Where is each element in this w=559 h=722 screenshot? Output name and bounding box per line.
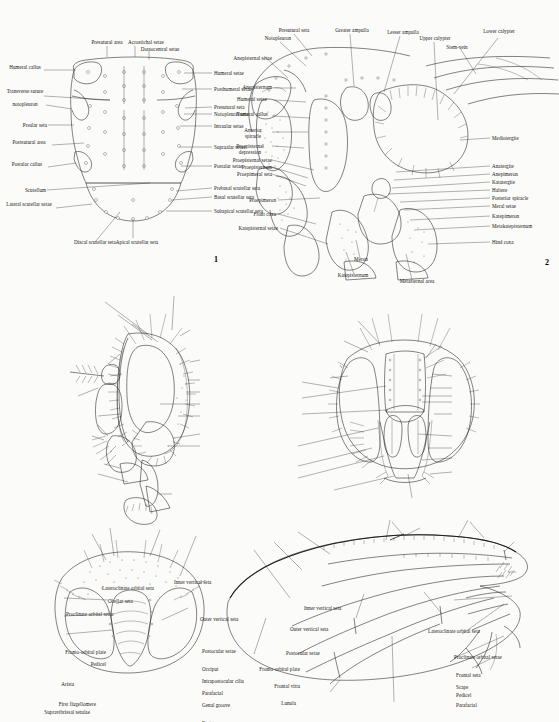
fig2-label-proepisternal-setae: Proepisternal setae xyxy=(226,157,272,163)
fig2-label-anepisternal-setae: Anepisternal setae xyxy=(228,55,272,61)
figure-6-wing-venation: Costa R1 Sc Humeral crossvein Costal spi… xyxy=(204,506,559,722)
fig3-label-arista: Arista xyxy=(2,681,74,687)
fig2-label-proepisternal-depression: Proepisternal depression xyxy=(228,143,272,155)
fig2-label-katepisternal-setae: Katepisternal setae xyxy=(224,225,278,231)
fig2-label-front-coxa: Front coxa xyxy=(230,211,276,217)
fig2-label-anepimeron: Anepimeron xyxy=(492,171,518,177)
fig1-label-prealar-seta: Prealar seta xyxy=(4,122,47,128)
fig2-label-meral-setae: Meral setae xyxy=(492,203,516,209)
fig2-label-lower-calypter: Lower calypter xyxy=(468,28,530,34)
fig3-label-first-flagellomere: First flagellomere xyxy=(2,701,96,707)
fig2-label-katatergite: Katatergite xyxy=(492,179,515,185)
fig2-label-metakatepisternum: Metakatepisternum xyxy=(492,223,532,229)
fig2-label-humeral-setae: Humeral setae xyxy=(234,96,270,102)
fig2-label-anepisternum: Anepisternum xyxy=(228,84,272,90)
figure-3-artwork xyxy=(0,288,280,518)
fig2-label-proepimeron: Proepimeron xyxy=(230,197,276,203)
fig2-label-presutural-seta: Presutural seta xyxy=(262,27,326,33)
fig2-label-haltere: Haltere xyxy=(492,187,507,193)
fig1-label-scutellum: Scutellum xyxy=(2,187,46,193)
fig1-label-apical-scutellar-seta: Apical scutellar seta xyxy=(100,239,174,245)
fig2-label-anterior-spiracle: Anterior spiracle xyxy=(236,127,270,139)
fig2-label-metasternal-area: Metasternal area xyxy=(384,278,450,284)
fig2-label-anatergite: Anatergite xyxy=(492,163,514,169)
fig2-label-proepimeral-seta: Proepimeral seta xyxy=(226,171,272,177)
fig2-label-stem-vein: Stem-vein xyxy=(432,44,482,50)
fig1-label-transverse-suture: Transverse suture xyxy=(6,88,44,94)
fig1-label-acrostichal-setae: Acrostichal setae xyxy=(110,39,182,45)
figure-4-head-frontal: Inner vertical seta Outer vertical seta … xyxy=(272,288,559,518)
fig2-label-proepisternum: Proepisternum xyxy=(226,164,272,170)
fig2-label-upper-calypter: Upper calypter xyxy=(404,35,466,41)
fig2-label-mediotergite: Mediotergite xyxy=(492,135,519,141)
figure-3-head-lateral: Inner vertical seta Lateroclinate orbita… xyxy=(0,288,280,518)
fig1-label-humeral-callus: Humeral callus xyxy=(6,64,44,70)
fig2-label-katepisternum: Katepisternum xyxy=(324,272,382,278)
fig1-label-dorsocentral-setae: Dorsocentral setae xyxy=(122,46,198,52)
fig2-label-notopleuron: Notopleuron xyxy=(250,35,306,41)
fig1-label-postsutural-area: Postsutural area xyxy=(8,139,50,145)
anatomy-plate: Presutural area Acrostichal setae Dorsoc… xyxy=(0,0,559,722)
figure-2-thorax-lateral: Presutural seta Notopleuron Greater ampu… xyxy=(228,0,559,285)
fig1-label-lateral-scutellar-setae: Lateral scutellar setae xyxy=(4,201,54,207)
figure-1-number: 1 xyxy=(214,255,218,264)
fig1-label-postalar-callus: Postalar callus xyxy=(8,161,46,167)
fig2-label-hind-coxa: Hind coxa xyxy=(492,239,514,245)
fig3-label-supravibrissal-setulae: Supravibrissal setulae xyxy=(2,709,90,715)
fig2-label-meron: Meron xyxy=(344,256,378,262)
figure-2-number: 2 xyxy=(545,258,549,267)
fig2-label-numeral-callus: Numeral callus xyxy=(234,111,270,117)
figure-6-artwork xyxy=(204,506,559,722)
fig2-label-posterior-spiracle: Posterior spiracle xyxy=(492,195,528,201)
figure-4-artwork xyxy=(272,288,559,518)
fig1-label-notopleuron: notopleuron xyxy=(4,101,46,107)
fig2-label-katepimeron: Katepimeron xyxy=(492,213,519,219)
